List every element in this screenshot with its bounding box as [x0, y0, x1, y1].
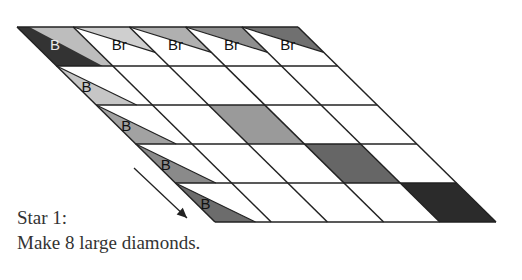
diagonal-shaded-cell — [209, 105, 305, 144]
caption-title: Star 1: — [17, 205, 200, 230]
cell-label: Br — [280, 36, 295, 53]
grid-col-line — [129, 27, 327, 222]
grid-col-line — [186, 27, 384, 222]
cell-label: Br — [168, 36, 183, 53]
diagonal-shaded-cell — [400, 183, 496, 222]
cell-label: B — [200, 195, 210, 212]
cell-label: Br — [112, 36, 127, 53]
cell-label: B — [82, 78, 92, 95]
caption-instruction: Make 8 large diamonds. — [17, 230, 200, 255]
diagonal-shaded-cell — [304, 144, 400, 183]
cell-label: B — [161, 156, 171, 173]
caption: Star 1: Make 8 large diamonds. — [17, 205, 200, 255]
cell-label: Br — [224, 36, 239, 53]
cell-label: B — [121, 117, 131, 134]
grid-col-line — [298, 27, 496, 222]
grid-col-line — [17, 27, 215, 222]
cell-label: B — [50, 36, 60, 53]
